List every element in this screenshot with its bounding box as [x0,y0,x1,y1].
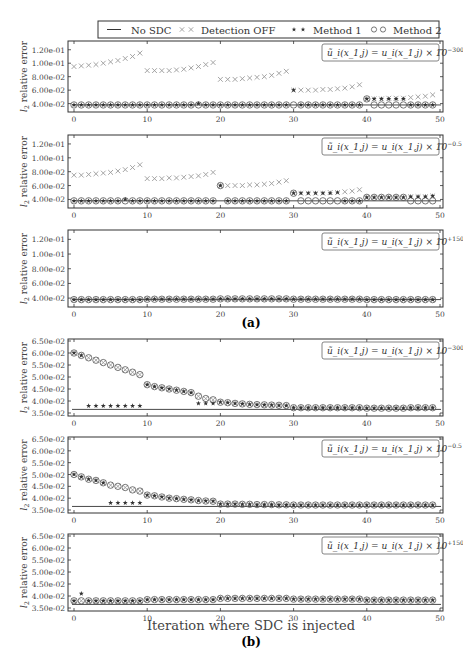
y-tick-label: 3.50e-02 [32,604,65,613]
x-tick-label: 20 [216,516,226,525]
x-tick-label: 30 [289,211,299,220]
y-axis-label: l2 relative error [19,40,31,112]
annotation-text: ũ_i(x_1,j) = u_i(x_1,j) × 10−300 [327,46,463,59]
y-tick-label: 6.00e-02 [32,86,65,95]
annotation-text: ũ_i(x_1,j) = u_i(x_1,j) × 10−0.5 [327,442,462,455]
x-tick-label: 20 [216,115,226,124]
x-tick-label: 10 [142,419,152,428]
y-tick-label: 4.50e-02 [32,580,65,589]
legend-label: Method 2 [393,25,442,36]
y-axis-label: l2 relative error [19,135,31,207]
y-tick-label: 5.00e-02 [32,568,65,577]
panel-b1: 3.50e-024.00e-024.50e-025.00e-025.50e-02… [19,337,463,428]
y-axis-label: l2 relative error [19,536,31,608]
y-tick-label: 8.00e-02 [32,265,65,274]
legend-label: Method 1 [313,25,362,36]
y-tick-label: 4.00e-02 [32,100,65,109]
y-tick-label: 5.50e-02 [32,459,65,468]
y-tick-label: 6.00e-02 [32,182,65,191]
y-tick-label: 1.00e-01 [32,154,65,163]
x-tick-label: 0 [72,614,77,623]
x-tick-label: 50 [435,211,445,220]
legend-label: No SDC [131,25,172,36]
y-tick-label: 4.50e-02 [32,482,65,491]
x-tick-label: 0 [72,115,77,124]
y-tick-label: 6.00e-02 [32,544,65,553]
y-tick-label: 3.50e-02 [32,506,65,515]
y-tick-label: 4.00e-02 [32,195,65,204]
x-tick-label: 40 [362,310,372,319]
panel-a3: 4.00e-026.00e-028.00e-021.00e-011.20e-01… [19,230,463,319]
x-tick-label: 30 [289,115,299,124]
x-tick-label: 50 [435,115,445,124]
x-tick-label: 40 [362,516,372,525]
x-tick-label: 20 [216,419,226,428]
y-tick-label: 5.00e-02 [32,471,65,480]
y-tick-label: 4.50e-02 [32,385,65,394]
annotation-text: ũ_i(x_1,j) = u_i(x_1,j) × 10+150 [327,539,463,552]
x-tick-label: 40 [362,419,372,428]
y-tick-label: 5.50e-02 [32,361,65,370]
x-tick-label: 10 [142,516,152,525]
y-axis-label: l2 relative error [19,232,31,304]
y-tick-label: 1.00e-01 [32,250,65,259]
caption-a: (a) [241,316,260,330]
y-tick-label: 4.00e-02 [32,294,65,303]
y-tick-label: 1.00e-01 [32,59,65,68]
x-tick-label: 20 [216,211,226,220]
y-tick-label: 4.00e-02 [32,494,65,503]
panel-a2: 4.00e-026.00e-028.00e-021.00e-011.20e-01… [19,135,462,220]
y-tick-label: 1.20e-01 [32,46,65,55]
y-tick-label: 1.20e-01 [32,235,65,244]
x-tick-label: 0 [72,211,77,220]
x-tick-label: 30 [289,516,299,525]
x-tick-label: 40 [362,115,372,124]
y-tick-label: 5.50e-02 [32,556,65,565]
legend-label: Detection OFF [201,25,275,36]
legend: No SDCDetection OFFMethod 1Method 2 [98,21,442,38]
y-tick-label: 4.00e-02 [32,592,65,601]
y-axis-label: l2 relative error [19,439,31,511]
y-axis-label: l2 relative error [19,341,31,413]
y-tick-label: 6.00e-02 [32,279,65,288]
y-tick-label: 8.00e-02 [32,168,65,177]
annotation-text: ũ_i(x_1,j) = u_i(x_1,j) × 10+150 [327,235,463,248]
y-tick-label: 8.00e-02 [32,73,65,82]
panel-b2: 3.50e-024.00e-024.50e-025.00e-025.50e-02… [19,435,462,525]
y-tick-label: 6.50e-02 [32,435,65,444]
y-tick-label: 6.00e-02 [32,349,65,358]
x-tick-label: 0 [72,516,77,525]
x-tick-label: 50 [435,614,445,623]
y-tick-label: 6.50e-02 [32,532,65,541]
x-tick-label: 10 [142,211,152,220]
caption-b: (b) [241,635,261,649]
panel-b3: 3.50e-024.00e-024.50e-025.00e-025.50e-02… [19,532,463,623]
x-tick-label: 40 [362,211,372,220]
x-axis-label: Iteration where SDC is injected [147,618,355,633]
panel-a1: 4.00e-026.00e-028.00e-021.00e-011.20e-01… [19,40,463,124]
y-tick-label: 3.50e-02 [32,409,65,418]
y-tick-label: 1.20e-01 [32,140,65,149]
x-tick-label: 50 [435,419,445,428]
y-tick-label: 6.00e-02 [32,447,65,456]
x-tick-label: 30 [289,419,299,428]
x-tick-label: 50 [435,310,445,319]
annotation-text: ũ_i(x_1,j) = u_i(x_1,j) × 10−0.5 [327,140,462,153]
x-tick-label: 50 [435,516,445,525]
x-tick-label: 0 [72,419,77,428]
x-tick-label: 10 [142,310,152,319]
panels: 4.00e-026.00e-028.00e-021.00e-011.20e-01… [19,40,463,623]
y-tick-label: 5.00e-02 [32,373,65,382]
y-tick-label: 4.00e-02 [32,397,65,406]
x-tick-label: 0 [72,310,77,319]
x-tick-label: 20 [216,310,226,319]
x-tick-label: 30 [289,310,299,319]
x-tick-label: 10 [142,115,152,124]
y-tick-label: 6.50e-02 [32,337,65,346]
x-tick-label: 40 [362,614,372,623]
figure: No SDCDetection OFFMethod 1Method 2 4.00… [0,0,463,668]
annotation-text: ũ_i(x_1,j) = u_i(x_1,j) × 10−300 [327,344,463,357]
